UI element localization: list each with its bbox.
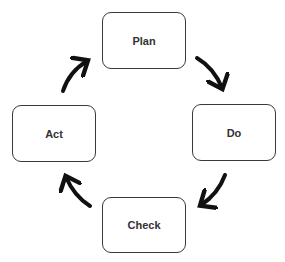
node-act-label: Act <box>45 128 63 140</box>
arrow-act-to-plan <box>63 61 87 91</box>
node-check: Check <box>102 197 186 253</box>
node-plan-label: Plan <box>132 35 155 47</box>
arrow-plan-to-do <box>197 58 222 88</box>
node-do-label: Do <box>227 127 242 139</box>
clipped-caption <box>0 256 200 262</box>
arrow-check-to-act <box>66 177 90 206</box>
arrow-do-to-check <box>201 175 225 205</box>
node-check-label: Check <box>127 219 160 231</box>
node-do: Do <box>192 104 276 161</box>
node-plan: Plan <box>102 12 186 69</box>
node-act: Act <box>12 105 96 162</box>
